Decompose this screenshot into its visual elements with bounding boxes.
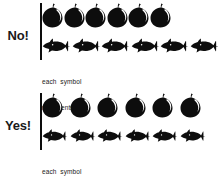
example-panel-no: No! each symbol represents 100 — [0, 0, 218, 90]
apple-icon — [150, 3, 171, 28]
apple-icon — [125, 93, 146, 118]
fish-icon — [101, 35, 130, 57]
apple-icon — [42, 3, 63, 28]
fish-icon — [42, 125, 68, 147]
apple-icon — [180, 93, 201, 118]
fish-icon — [97, 125, 123, 147]
example-panel-yes: Yes! each symbol represents 100 — [0, 90, 218, 180]
legend-line-1: each symbol — [42, 168, 87, 177]
fish-icon — [152, 125, 178, 147]
apple-icon — [42, 93, 63, 118]
apple-icon — [97, 93, 118, 118]
pictograph-rows-no — [42, 2, 218, 60]
apple-icon — [128, 3, 149, 28]
apple-icon — [64, 3, 85, 28]
apple-icon — [152, 93, 173, 118]
apple-icon — [107, 3, 128, 28]
verdict-label-no: No! — [0, 28, 36, 43]
pictograph-row-fish — [42, 32, 218, 59]
apple-icon — [70, 93, 91, 118]
fish-icon — [42, 35, 71, 57]
pictograph-row-fish — [42, 122, 206, 149]
pictograph-row-fruit — [42, 2, 171, 29]
fish-icon — [180, 125, 206, 147]
fish-icon — [125, 125, 151, 147]
pictograph-row-fruit — [42, 92, 201, 119]
apple-icon — [85, 3, 106, 28]
fish-icon — [70, 125, 96, 147]
fish-icon — [160, 35, 189, 57]
fish-icon — [72, 35, 101, 57]
fish-icon — [131, 35, 160, 57]
legend-line-1: each symbol — [42, 78, 87, 87]
verdict-label-yes: Yes! — [0, 118, 36, 133]
legend-yes: each symbol represents 100 — [42, 151, 87, 181]
pictograph-figure: No! each symbol represents 100 Yes! each… — [0, 0, 218, 181]
pictograph-rows-yes — [42, 92, 218, 150]
fish-icon — [190, 35, 219, 57]
